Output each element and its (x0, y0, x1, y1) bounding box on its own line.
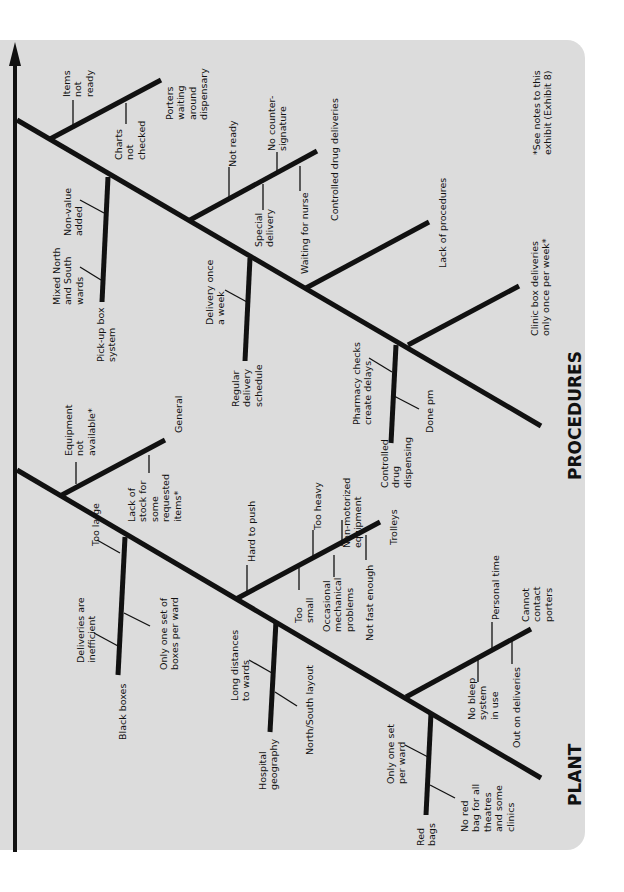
sub-cause-label: Delivery oncea week (204, 259, 227, 325)
sub-cause-label: Only one setper ward (385, 724, 408, 784)
cause-bone (391, 345, 396, 443)
sub-cause-tick (124, 613, 150, 626)
sub-cause-label: Out on deliveries (511, 667, 522, 748)
sub-cause-label: Chartsnotchecked (113, 121, 147, 160)
arrowhead-icon (9, 42, 21, 66)
sub-cause-label: Itemsnotready (61, 70, 95, 97)
category-bone-procedures (17, 120, 541, 426)
sub-cause-tick (394, 396, 419, 409)
cause-bone (102, 177, 108, 302)
sub-cause-label: Too large (90, 503, 101, 547)
sub-cause-label: Too heavy (312, 482, 323, 531)
cause-label: Porterswaitingarounddispensary (164, 68, 210, 120)
cause-bone (245, 258, 250, 361)
cause-label: Black boxes (117, 684, 128, 740)
cause-label: Pick-up boxsystem (95, 307, 118, 362)
category-label-plant: PLANT (565, 743, 585, 806)
sub-cause-tick (94, 633, 118, 646)
sub-cause-label: No bleepsystemin use (466, 678, 500, 720)
sub-cause-label: North/South layout (304, 665, 315, 755)
sub-cause-tick (249, 660, 272, 673)
cause-label: Hospitalgeography (257, 739, 280, 790)
sub-cause-label: Occasionalmechanicalproblems (321, 577, 355, 632)
cause-bone (270, 621, 276, 732)
cause-label: Trolleys (388, 509, 399, 546)
sub-cause-label: Non-valueadded (62, 188, 85, 236)
cause-label: Cannotcontactporters (520, 586, 554, 622)
sub-cause-label: Hard to push (246, 501, 257, 562)
cause-label: Regulardeliveryschedule (230, 364, 264, 407)
category-label-procedures: PROCEDURES (565, 351, 585, 480)
sub-cause-label: Deliveries areinefficient (75, 597, 98, 663)
cause-bone (408, 286, 519, 345)
sub-cause-label: No redbag for alltheatresand someclinics (459, 784, 516, 832)
sub-cause-label: Lack ofstock forsomerequesteditems* (126, 474, 183, 522)
cause-bone (426, 713, 431, 815)
footnote: *See notes to thisexhibit (Exhibit 8) (531, 70, 554, 155)
cause-label: General (173, 396, 184, 433)
sub-cause-label: Toosmall (293, 598, 316, 624)
cause-label: Clinic box deliveriesonly once per week* (529, 238, 552, 336)
sub-cause-label: Non-motorizedequipment (341, 478, 364, 548)
sub-cause-label: Not fast enough (364, 565, 375, 641)
cause-label: Lack of procedures (437, 178, 448, 268)
sub-cause-label: Long distancesto wards (229, 630, 252, 701)
cause-bone (306, 222, 429, 288)
sub-cause-label: Not ready (227, 120, 238, 167)
sub-cause-label: Done pm (424, 390, 435, 433)
sub-cause-tick (430, 785, 455, 798)
cause-bone (118, 537, 125, 675)
cause-label: Redbags (415, 823, 438, 846)
sub-cause-label: No counter-signature (266, 96, 289, 151)
sub-cause-label: Specialdelivery (253, 208, 276, 247)
sub-cause-tick (405, 745, 428, 757)
sub-cause-label: Only one set ofboxes per ward (158, 597, 181, 670)
sub-cause-label: Mixed Northand Southwards (51, 247, 85, 305)
cause-label: Controlleddrugdispensing (379, 437, 413, 488)
sub-cause-label: Waiting for nurse (299, 192, 310, 274)
sub-cause-label: Equipmentnotavailable* (63, 404, 97, 456)
fishbone-diagram: PROCEDURESPorterswaitingarounddispensary… (0, 0, 624, 892)
cause-label: Controlled drug deliveries (329, 98, 340, 221)
sub-cause-tick (275, 692, 297, 706)
spine-arrow (9, 42, 21, 852)
sub-cause-label: Pharmacy checkscreate delays (351, 342, 374, 425)
sub-cause-tick (225, 290, 247, 302)
sub-cause-label: Personal time (490, 555, 501, 620)
